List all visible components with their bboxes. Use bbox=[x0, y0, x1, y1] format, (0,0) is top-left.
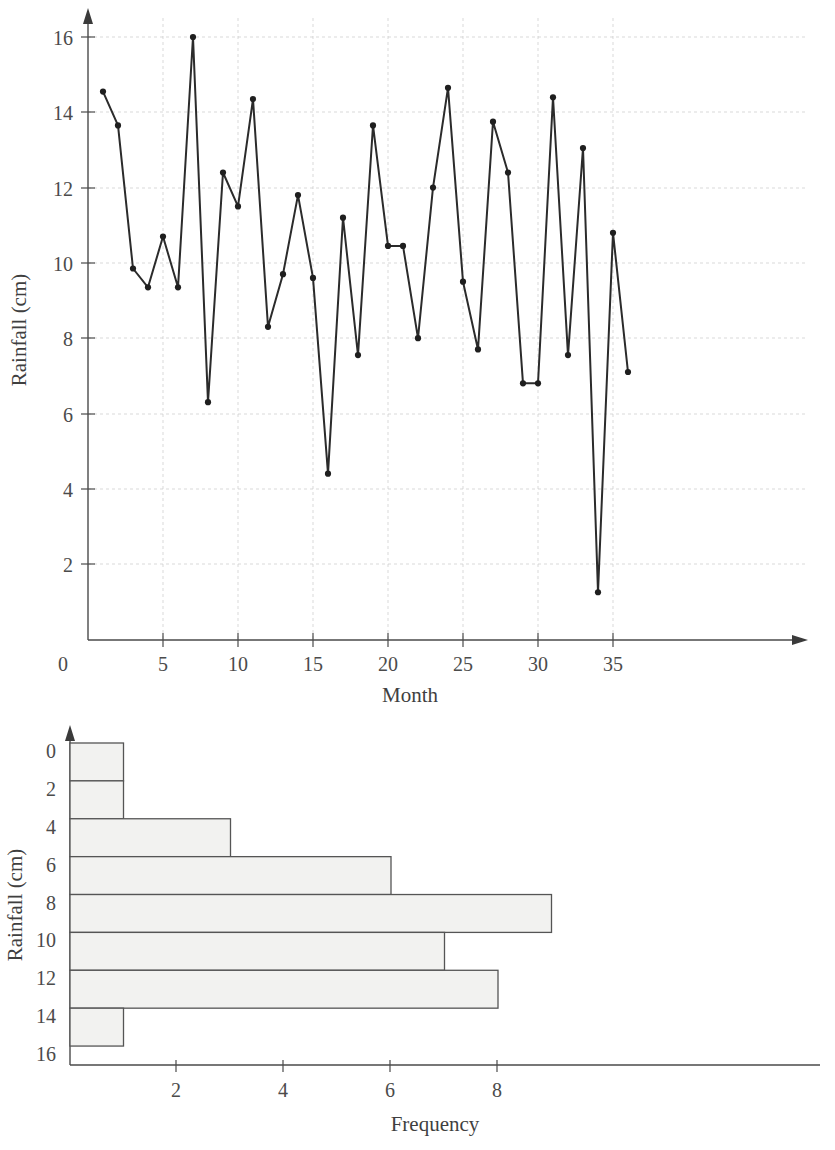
histogram-x-axis-title: Frequency bbox=[391, 1112, 480, 1136]
data-point-marker bbox=[355, 352, 361, 358]
histogram-bar bbox=[70, 743, 124, 781]
histogram-bar bbox=[70, 1008, 124, 1046]
data-point-marker bbox=[100, 88, 106, 94]
histogram-y-tick-label: 6 bbox=[46, 854, 56, 876]
data-point-marker bbox=[265, 324, 271, 330]
histogram-bars bbox=[70, 743, 552, 1046]
histogram-y-tick-label: 16 bbox=[36, 1043, 56, 1065]
x-tick-label: 20 bbox=[378, 653, 398, 675]
histogram-x-tick-label: 8 bbox=[492, 1079, 502, 1101]
data-point-marker bbox=[235, 203, 241, 209]
data-point-marker bbox=[565, 352, 571, 358]
data-point-marker bbox=[430, 184, 436, 190]
data-point-marker bbox=[220, 169, 226, 175]
histogram-y-tick-label: 12 bbox=[36, 967, 56, 989]
histogram-y-tick-label: 2 bbox=[46, 778, 56, 800]
data-point-marker bbox=[490, 119, 496, 125]
data-point-marker bbox=[415, 335, 421, 341]
data-point-marker bbox=[550, 94, 556, 100]
data-point-marker bbox=[145, 284, 151, 290]
histogram-x-tick-labels: 2 4 6 8 bbox=[171, 1079, 502, 1101]
histogram-bar bbox=[70, 895, 552, 933]
x-tick-label: 5 bbox=[158, 653, 168, 675]
data-point-marker bbox=[175, 284, 181, 290]
data-point-marker bbox=[205, 399, 211, 405]
line-chart-y-tick-labels: 16 14 12 10 8 6 4 2 bbox=[53, 27, 73, 576]
histogram-y-tick-labels: 0246810121416 bbox=[36, 740, 56, 1065]
y-tick-label: 2 bbox=[63, 554, 73, 576]
figure-page: 16 14 12 10 8 6 4 2 bbox=[0, 0, 835, 1150]
line-chart-svg: 16 14 12 10 8 6 4 2 bbox=[0, 0, 835, 715]
y-axis-arrow-icon bbox=[83, 8, 93, 24]
data-point-marker bbox=[325, 471, 331, 477]
x-tick-label: 15 bbox=[303, 653, 323, 675]
y-tick-label: 10 bbox=[53, 253, 73, 275]
data-point-marker bbox=[400, 243, 406, 249]
x-tick-label: 25 bbox=[453, 653, 473, 675]
histogram-bar bbox=[70, 781, 124, 819]
line-chart-y-axis bbox=[81, 8, 95, 640]
y-tick-label: 4 bbox=[63, 479, 73, 501]
line-chart-x-tick-labels: 0 5 10 15 20 25 30 35 bbox=[58, 653, 623, 675]
rainfall-series-line bbox=[103, 37, 628, 592]
y-tick-label: 16 bbox=[53, 27, 73, 49]
y-tick-label: 12 bbox=[53, 178, 73, 200]
data-point-marker bbox=[280, 271, 286, 277]
data-point-marker bbox=[190, 34, 196, 40]
x-tick-label: 35 bbox=[603, 653, 623, 675]
data-point-marker bbox=[250, 96, 256, 102]
data-point-marker bbox=[595, 589, 601, 595]
x-tick-label: 10 bbox=[228, 653, 248, 675]
y-tick-label: 8 bbox=[63, 328, 73, 350]
histogram-x-tick-label: 2 bbox=[171, 1079, 181, 1101]
data-point-marker bbox=[460, 279, 466, 285]
histogram-y-tick-label: 10 bbox=[36, 929, 56, 951]
data-point-marker bbox=[295, 192, 301, 198]
data-point-marker bbox=[115, 122, 121, 128]
histogram-y-axis-arrow-icon bbox=[65, 725, 75, 741]
histogram-panel: 2 4 6 8 0246810121416 Frequency Rainfall… bbox=[0, 715, 835, 1150]
histogram-bar bbox=[70, 857, 391, 895]
data-point-marker bbox=[340, 215, 346, 221]
data-point-marker bbox=[445, 85, 451, 91]
data-point-marker bbox=[385, 243, 391, 249]
x-axis-arrow-icon bbox=[792, 635, 808, 645]
histogram-bar bbox=[70, 819, 231, 857]
data-point-marker bbox=[610, 230, 616, 236]
data-point-marker bbox=[160, 233, 166, 239]
data-point-marker bbox=[310, 275, 316, 281]
histogram-y-tick-label: 14 bbox=[36, 1005, 56, 1027]
y-tick-label: 14 bbox=[53, 102, 73, 124]
data-point-marker bbox=[580, 145, 586, 151]
data-point-marker bbox=[475, 346, 481, 352]
y-tick-label: 6 bbox=[63, 404, 73, 426]
data-point-marker bbox=[370, 122, 376, 128]
line-chart-panel: 16 14 12 10 8 6 4 2 bbox=[0, 0, 835, 715]
histogram-x-axis bbox=[70, 1060, 820, 1072]
data-point-marker bbox=[520, 380, 526, 386]
line-chart-vertical-gridlines bbox=[163, 18, 613, 640]
data-point-marker bbox=[535, 380, 541, 386]
line-chart-y-axis-title: Rainfall (cm) bbox=[7, 274, 31, 387]
data-point-marker bbox=[505, 169, 511, 175]
histogram-y-tick-label: 0 bbox=[46, 740, 56, 762]
x-tick-label: 30 bbox=[528, 653, 548, 675]
x-tick-label: 0 bbox=[58, 653, 68, 675]
histogram-bar bbox=[70, 970, 498, 1008]
histogram-y-tick-label: 4 bbox=[46, 816, 56, 838]
histogram-y-tick-label: 8 bbox=[46, 892, 56, 914]
histogram-y-axis-title: Rainfall (cm) bbox=[3, 849, 27, 962]
histogram-x-tick-label: 4 bbox=[278, 1079, 288, 1101]
line-chart-x-axis bbox=[88, 633, 808, 647]
data-point-marker bbox=[625, 369, 631, 375]
histogram-svg: 2 4 6 8 0246810121416 Frequency Rainfall… bbox=[0, 715, 835, 1150]
line-chart-x-axis-title: Month bbox=[382, 683, 439, 707]
data-point-marker bbox=[130, 265, 136, 271]
histogram-bar bbox=[70, 932, 445, 970]
histogram-x-tick-label: 6 bbox=[385, 1079, 395, 1101]
